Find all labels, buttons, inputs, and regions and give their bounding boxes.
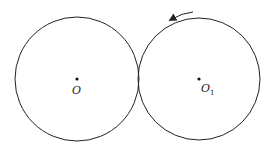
label-o1: O1 [201,82,215,97]
tangent-circles-diagram: O O1 [0,0,272,148]
rotation-arrow-icon [172,12,193,19]
center-point-o1 [197,77,200,80]
label-o: O [72,84,81,97]
center-point-o [75,77,78,80]
label-o1-main: O [201,82,210,95]
label-o1-subscript: 1 [210,89,214,97]
